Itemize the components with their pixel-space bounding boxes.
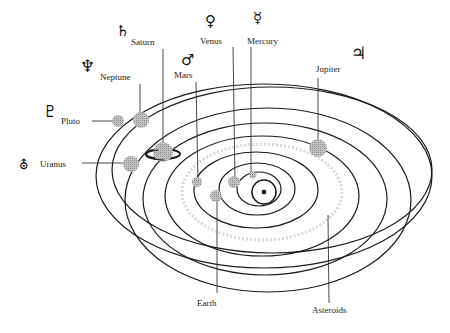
- label-neptune: Neptune: [100, 73, 131, 82]
- label-mercury: Mercury: [247, 37, 278, 46]
- pluto-symbol-icon: ♇: [43, 104, 57, 120]
- label-asteroids: Asteroids: [312, 306, 347, 315]
- label-uranus: Uranus: [40, 160, 66, 169]
- orbit-earth: [219, 163, 295, 215]
- mercury-symbol-icon: ☿: [253, 11, 262, 26]
- mars-symbol-icon: ♂: [181, 53, 194, 68]
- saturn-symbol-icon: ♄: [116, 24, 129, 39]
- orbit-drawing: [0, 0, 450, 333]
- orbit-venus: [237, 172, 281, 206]
- planet-mercury: [250, 172, 257, 179]
- leader-venus: [233, 47, 235, 181]
- label-saturn: Saturn: [131, 38, 155, 47]
- sun: [262, 190, 267, 195]
- label-mars: Mars: [174, 71, 193, 80]
- neptune-symbol-icon: ♆: [80, 58, 95, 75]
- planet-saturn: [146, 142, 180, 162]
- planet-uranus: [123, 156, 139, 172]
- planet-neptune: [133, 112, 149, 128]
- label-venus: Venus: [200, 37, 222, 46]
- orbit-saturn: [143, 123, 387, 275]
- label-earth: Earth: [197, 299, 217, 308]
- planet-earth: [210, 190, 222, 202]
- leader-asteroids: [328, 215, 329, 303]
- venus-symbol-icon: ♀: [205, 14, 216, 29]
- label-jupiter: Jupiter: [316, 65, 341, 74]
- label-pluto: Pluto: [61, 117, 80, 126]
- planet-pluto: [112, 115, 124, 127]
- uranus-symbol-icon: ⛢: [19, 158, 29, 171]
- planet-jupiter: [309, 139, 327, 157]
- planet-venus: [228, 176, 240, 188]
- planet-mars: [192, 177, 202, 187]
- solar-system-diagram: ☿ ♀ ♂ ♃ ♄ ⛢ ♆ ♇ Mercury Venus Earth Mars…: [0, 0, 450, 333]
- jupiter-symbol-icon: ♃: [351, 45, 366, 62]
